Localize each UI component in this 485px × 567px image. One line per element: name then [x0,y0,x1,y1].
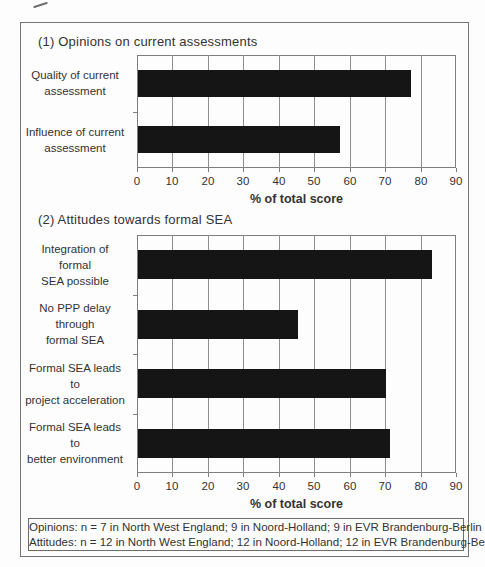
scan-artifact-dash [33,2,48,9]
x-tick-label: 10 [157,480,187,492]
x-tick-label: 60 [335,480,365,492]
category-label-line: Integration of formal [25,241,125,273]
x-tick-label: 50 [299,480,329,492]
x-tick [314,473,315,477]
x-tick-label: 70 [370,480,400,492]
category-tick [133,295,137,296]
footnote-line-attitudes: Attitudes: n = 12 in North West England;… [29,535,463,550]
x-tick-label: 20 [193,480,223,492]
figure-frame: (1) Opinions on current assessments % of… [20,22,469,557]
category-label: Formal SEA leads toproject acceleration [25,360,125,408]
x-tick-label: 0 [122,480,152,492]
x-tick [350,473,351,477]
category-label-line: formal SEA [25,332,125,348]
x-tick-label: 40 [264,480,294,492]
category-label: Formal SEA leads tobetter environment [25,419,125,467]
bar [138,429,390,458]
bar [138,310,298,339]
x-tick-label: 90 [441,480,471,492]
bar [138,369,386,398]
x-tick [208,473,209,477]
x-tick [385,473,386,477]
footnote-line-opinions: Opinions: n = 7 in North West England; 9… [29,520,463,535]
figure-page: (1) Opinions on current assessments % of… [0,0,485,567]
x-tick [279,473,280,477]
category-tick [133,354,137,355]
category-tick [133,414,137,415]
category-label-line: Formal SEA leads to [25,360,125,392]
category-label-line: project acceleration [25,392,125,408]
x-tick-label: 30 [228,480,258,492]
chart-title: (2) Attitudes towards formal SEA [38,212,232,227]
x-axis-label: % of total score [137,497,456,511]
x-tick [456,473,457,477]
footnote-box: Opinions: n = 7 in North West England; 9… [28,518,464,551]
x-tick [421,473,422,477]
category-label-line: SEA possible [25,273,125,289]
category-label-line: Formal SEA leads to [25,419,125,451]
bar [138,250,432,279]
x-tick [172,473,173,477]
x-tick-label: 80 [406,480,436,492]
category-label: Integration of formalSEA possible [25,241,125,289]
x-tick [243,473,244,477]
category-label: No PPP delay throughformal SEA [25,300,125,348]
category-label-line: No PPP delay through [25,300,125,332]
chart-attitudes: (2) Attitudes towards formal SEA % of to… [21,23,468,556]
x-tick [137,473,138,477]
category-label-line: better environment [25,451,125,467]
